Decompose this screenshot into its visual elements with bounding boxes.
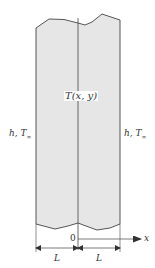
left-half-width-label: L bbox=[54, 254, 60, 263]
right-half-width-label: L bbox=[96, 254, 102, 263]
temperature-field-label: T(x, y) bbox=[64, 91, 98, 101]
left-boundary-text: h, T bbox=[9, 128, 27, 138]
x-axis-label: x bbox=[144, 234, 149, 243]
origin-label: 0 bbox=[70, 234, 76, 243]
right-boundary-subscript: ∞ bbox=[142, 133, 147, 140]
right-boundary-label: h, T∞ bbox=[124, 129, 147, 140]
left-boundary-subscript: ∞ bbox=[27, 133, 32, 140]
right-boundary-text: h, T bbox=[124, 128, 142, 138]
left-boundary-label: h, T∞ bbox=[9, 129, 32, 140]
